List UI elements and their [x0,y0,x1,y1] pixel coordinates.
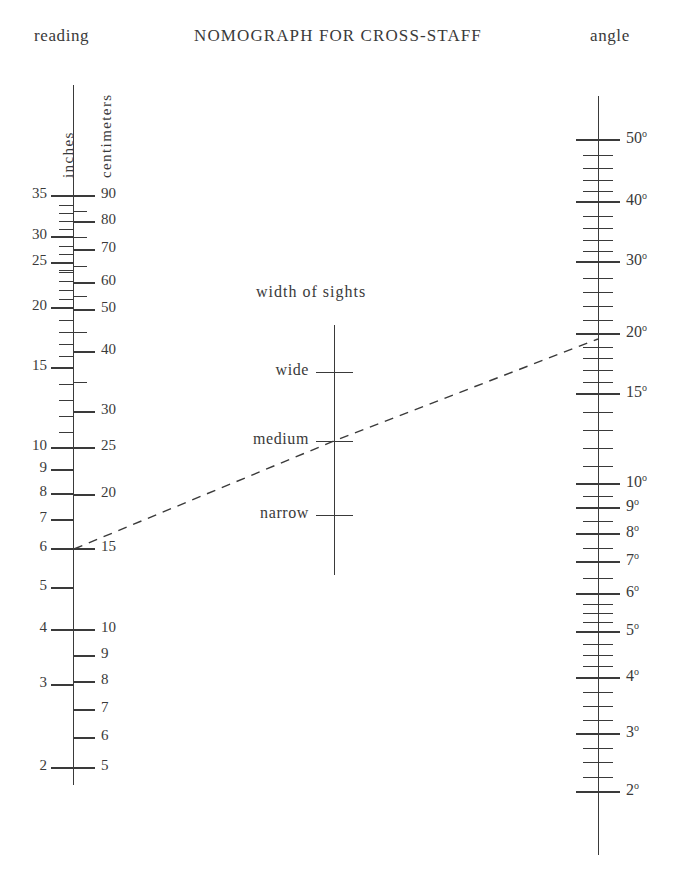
reading-inch-tick [59,290,73,291]
angle-tick [598,578,613,579]
reading-inch-tick [59,416,73,417]
reading-inch-tick [51,469,73,471]
reading-inch-label: 3 [0,674,47,691]
reading-inch-tick [59,221,73,222]
angle-tick [576,201,598,203]
angle-tick [583,777,598,778]
width-tick [316,515,353,516]
angle-tick [598,666,613,667]
reading-cm-tick [73,266,87,267]
middle-scale-title: width of sights [256,283,366,301]
angle-tick [576,483,598,485]
reading-inch-tick [59,246,73,247]
angle-tick [576,561,598,563]
angle-tick [598,292,613,293]
reading-cm-tick [73,195,95,197]
angle-tick [598,261,620,263]
angle-tick [583,578,598,579]
reading-inch-tick [59,229,73,230]
left-scale-header: reading [34,26,89,46]
angle-tick [576,677,598,679]
angle-tick [598,644,613,645]
reading-inch-label: 20 [0,297,47,314]
angle-label: 9o [626,497,639,515]
angle-tick [576,791,598,793]
angle-tick [583,666,598,667]
reading-cm-tick [73,709,95,711]
reading-inch-tick [51,767,73,769]
page-title: NOMOGRAPH FOR CROSS-STAFF [0,26,676,46]
reading-inch-label: 15 [0,357,47,374]
reading-cm-tick [73,249,95,251]
reading-inch-label: 5 [0,577,47,594]
angle-tick [598,216,613,217]
angle-tick [576,631,598,633]
angle-tick [576,507,598,509]
reading-inch-tick [51,236,73,238]
angle-tick [576,733,598,735]
angle-tick [583,240,598,241]
angle-tick [576,139,598,141]
angle-axis-line [598,96,599,855]
angle-tick [598,358,613,359]
reading-cm-tick [73,211,87,212]
reading-inch-tick [59,205,73,206]
reading-inch-tick [51,548,73,550]
reading-inch-tick [51,493,73,495]
angle-tick [583,604,598,605]
angle-tick [583,466,598,467]
angle-tick [583,191,598,192]
angle-label: 10o [626,473,647,491]
reading-inch-tick [59,270,73,271]
angle-tick [583,655,598,656]
angle-label: 20o [626,323,647,341]
angle-tick [598,412,613,413]
angle-label: 5o [626,621,639,639]
reading-inch-tick [59,400,73,401]
reading-inch-label: 35 [0,185,47,202]
angle-tick [598,306,613,307]
reading-cm-tick [73,296,87,297]
angle-tick [598,733,620,735]
angle-label: 2o [626,781,639,799]
reading-cm-tick [73,494,95,496]
reading-cm-tick [73,282,95,284]
angle-tick [598,191,613,192]
angle-tick [583,613,598,614]
angle-tick [583,692,598,693]
angle-tick [583,168,598,169]
angle-tick [583,292,598,293]
reading-cm-tick [73,237,87,238]
width-label-narrow: narrow [204,504,309,522]
reading-cm-tick [73,737,95,739]
angle-tick [583,748,598,749]
angle-tick [583,706,598,707]
angle-tick [598,762,613,763]
angle-label: 8o [626,523,639,541]
reading-cm-label: 90 [101,185,116,202]
angle-tick [583,548,598,549]
angle-tick [583,320,598,321]
angle-label: 30o [626,251,647,269]
reading-cm-tick [73,351,95,353]
angle-tick [583,521,598,522]
reading-cm-label: 25 [101,437,116,454]
reading-inch-tick [59,299,73,300]
reading-cm-label: 8 [101,671,109,688]
reading-inch-label: 9 [0,459,47,476]
reading-inch-label: 6 [0,538,47,555]
angle-tick [598,155,613,156]
reading-inch-label: 25 [0,252,47,269]
angle-tick [598,548,613,549]
reading-inch-label: 30 [0,226,47,243]
angle-tick [598,278,613,279]
reading-inch-tick [59,384,73,385]
angle-tick [598,720,613,721]
reading-cm-label: 7 [101,699,109,716]
angle-tick [583,251,598,252]
angle-tick [598,168,613,169]
angle-tick [576,533,598,535]
reading-cm-label: 6 [101,727,109,744]
width-tick [316,441,353,442]
angle-tick [598,240,613,241]
